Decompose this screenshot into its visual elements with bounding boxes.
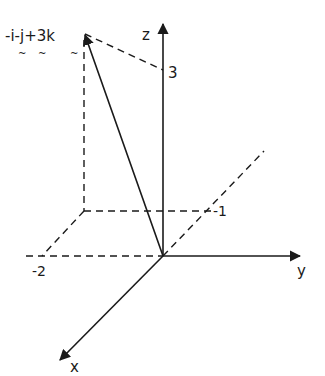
- vector-label: -i-j+3k: [5, 27, 55, 45]
- x-tick-label: -2: [32, 263, 46, 279]
- vector-diagram: z 3 y -1 x -2 -i-j+3k ~ ~ ~: [0, 0, 325, 376]
- vector-arrow: [85, 35, 163, 256]
- x-axis: [60, 256, 163, 360]
- tilde-mark-k: ~: [70, 48, 78, 59]
- z-axis-label: z: [142, 26, 150, 44]
- tilde-mark-i: ~: [18, 48, 26, 59]
- tilde-mark-j: ~: [38, 48, 46, 59]
- y-axis-label: y: [297, 262, 306, 280]
- x-axis-label: x: [70, 358, 79, 376]
- dashed-top-to-z3: [85, 34, 163, 70]
- z-tick-label: 3: [168, 64, 178, 82]
- y-tick-label: -1: [213, 203, 227, 219]
- dashed-diagonal-to-x-2: [42, 211, 84, 256]
